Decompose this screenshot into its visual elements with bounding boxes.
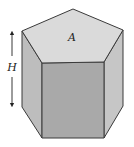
pentagonal-prism-figure: H A	[0, 0, 134, 147]
prism-diagram: H A	[0, 0, 134, 147]
area-label: A	[67, 31, 76, 44]
front-face	[42, 62, 104, 138]
height-label: H	[6, 61, 17, 74]
